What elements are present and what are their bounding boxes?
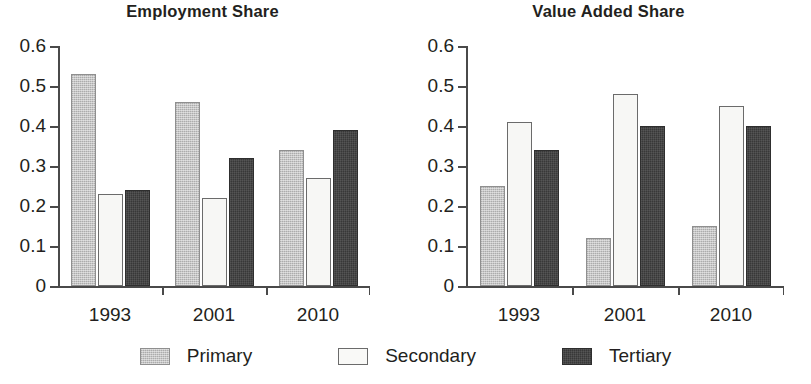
y-axis-line	[466, 46, 468, 286]
legend-label-primary: Primary	[187, 345, 252, 367]
bar-primary-1993	[71, 74, 96, 286]
bar-primary-2001	[586, 238, 611, 286]
plot-area-employment-share: 00.10.20.30.40.50.6199320012010	[58, 46, 370, 286]
plot-area-value-added-share: 00.10.20.30.40.50.6199320012010	[466, 46, 784, 286]
y-axis-tick-label: 0.3	[428, 155, 454, 177]
bar-secondary-2010	[719, 106, 744, 286]
bar-secondary-2010	[306, 178, 331, 286]
bar-tertiary-2001	[640, 126, 665, 286]
bar-secondary-2001	[613, 94, 638, 286]
y-axis-tick-label: 0	[35, 275, 46, 297]
y-axis-tick-label: 0.6	[20, 35, 46, 57]
grouped-bar-chart-figure: Employment Share 00.10.20.30.40.50.61993…	[0, 0, 811, 384]
x-axis-line	[466, 286, 784, 288]
legend-item-primary: Primary	[140, 345, 252, 367]
legend-label-tertiary: Tertiary	[609, 345, 671, 367]
chart-title-value-added-share: Value Added Share	[406, 2, 811, 21]
bar-tertiary-1993	[534, 150, 559, 286]
y-axis-tick	[458, 86, 466, 88]
y-axis-tick-label: 0.5	[20, 75, 46, 97]
y-axis-tick	[458, 286, 466, 288]
chart-panel-employment-share: Employment Share 00.10.20.30.40.50.61993…	[0, 0, 405, 330]
y-axis-tick	[50, 286, 58, 288]
x-axis-category-label: 2010	[710, 304, 752, 326]
y-axis-tick-label: 0.5	[428, 75, 454, 97]
y-axis-tick	[458, 246, 466, 248]
bar-primary-2001	[175, 102, 200, 286]
x-axis-category-label: 2001	[193, 304, 235, 326]
y-axis-tick-label: 0	[443, 275, 454, 297]
bar-primary-1993	[480, 186, 505, 286]
bar-secondary-1993	[507, 122, 532, 286]
y-axis-tick	[50, 46, 58, 48]
y-axis-tick-label: 0.4	[20, 115, 46, 137]
x-axis-category-label: 2010	[297, 304, 339, 326]
y-axis-tick	[458, 206, 466, 208]
bar-primary-2010	[279, 150, 304, 286]
bar-secondary-1993	[98, 194, 123, 286]
y-axis-tick	[458, 126, 466, 128]
y-axis-tick	[50, 86, 58, 88]
y-axis-tick-label: 0.2	[20, 195, 46, 217]
legend-swatch-tertiary-icon	[562, 348, 592, 365]
legend-item-secondary: Secondary	[338, 345, 476, 367]
legend-swatch-primary-icon	[140, 348, 170, 365]
chart-panel-value-added-share: Value Added Share 00.10.20.30.40.50.6199…	[406, 0, 811, 330]
y-axis-tick	[458, 46, 466, 48]
x-axis-tick	[266, 287, 268, 295]
bar-secondary-2001	[202, 198, 227, 286]
bar-tertiary-2010	[333, 130, 358, 286]
x-axis-tick	[678, 287, 680, 295]
y-axis-tick-label: 0.3	[20, 155, 46, 177]
y-axis-tick	[50, 166, 58, 168]
bar-primary-2010	[692, 226, 717, 286]
x-axis-tick	[162, 287, 164, 295]
y-axis-tick-label: 0.1	[428, 235, 454, 257]
y-axis-tick-label: 0.6	[428, 35, 454, 57]
y-axis-tick	[458, 166, 466, 168]
x-axis-line	[58, 286, 370, 288]
y-axis-tick	[50, 126, 58, 128]
x-axis-category-label: 1993	[89, 304, 131, 326]
bar-tertiary-1993	[125, 190, 150, 286]
y-axis-tick-label: 0.2	[428, 195, 454, 217]
y-axis-line	[58, 46, 60, 286]
y-axis-tick-label: 0.1	[20, 235, 46, 257]
chart-legend: PrimarySecondaryTertiary	[0, 345, 811, 367]
bar-tertiary-2010	[746, 126, 771, 286]
x-axis-category-label: 2001	[604, 304, 646, 326]
chart-title-employment-share: Employment Share	[0, 2, 405, 21]
x-axis-category-label: 1993	[498, 304, 540, 326]
legend-label-secondary: Secondary	[385, 345, 476, 367]
y-axis-tick	[50, 246, 58, 248]
x-axis-tick	[572, 287, 574, 295]
legend-swatch-secondary-icon	[338, 348, 368, 365]
x-axis-end-tick	[369, 287, 371, 295]
bar-tertiary-2001	[229, 158, 254, 286]
y-axis-tick	[50, 206, 58, 208]
y-axis-tick-label: 0.4	[428, 115, 454, 137]
legend-item-tertiary: Tertiary	[562, 345, 671, 367]
x-axis-end-tick	[783, 287, 785, 295]
